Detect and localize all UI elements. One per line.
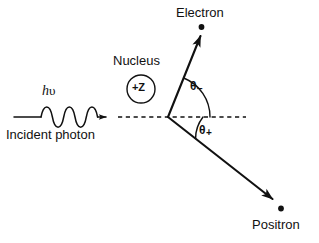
theta-minus-subscript: − [197, 83, 203, 94]
nucleus-charge-label: +Z [132, 82, 145, 93]
theta-plus-subscript: + [206, 127, 212, 138]
positron-endpoint-dot [278, 206, 284, 212]
electron-label: Electron [176, 6, 224, 19]
pair-production-diagram: Electron Positron Nucleus +Z Incident ph… [0, 0, 319, 243]
incident-photon-label: Incident photon [6, 128, 95, 141]
electron-track-line [168, 36, 201, 117]
theta-minus-label: θ− [190, 80, 203, 94]
photon-wave [41, 107, 98, 127]
photon-energy-label: hυ [42, 84, 55, 98]
theta-plus-label: θ+ [199, 124, 212, 138]
planck-constant-symbol: h [42, 83, 49, 98]
electron-endpoint-dot [199, 24, 205, 30]
positron-track-line [168, 117, 273, 199]
theta-minus-glyph: θ [190, 79, 197, 93]
frequency-symbol: υ [49, 83, 55, 98]
positron-label: Positron [252, 218, 300, 231]
theta-plus-glyph: θ [199, 123, 206, 137]
nucleus-label: Nucleus [113, 54, 160, 67]
diagram-canvas [0, 0, 319, 243]
